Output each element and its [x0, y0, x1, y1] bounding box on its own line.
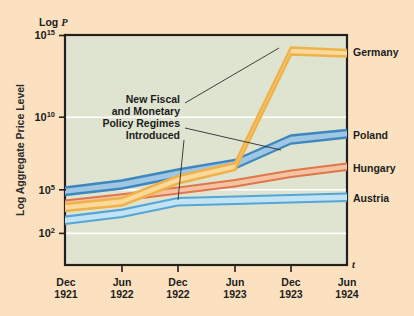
xtick-label-jun-1923-year: 1923	[223, 288, 247, 300]
xtick-label-jun-1923-month: Jun	[226, 276, 245, 288]
xtick-label-dec-1921-year: 1921	[54, 288, 78, 300]
annotation-line-2: and Monetary	[112, 105, 180, 117]
xtick-label-dec-1923-year: 1923	[279, 288, 303, 300]
series-label-hungary: Hungary	[353, 162, 396, 174]
xtick-label-jun-1924-month: Jun	[338, 276, 357, 288]
series-label-germany: Germany	[353, 46, 399, 58]
xtick-label-dec-1922-year: 1922	[166, 288, 190, 300]
hyperinflation-line-chart: 1015 1010 105 102 Log P Log Aggregate Pr…	[0, 0, 414, 316]
xtick-label-jun-1922-month: Jun	[113, 276, 132, 288]
annotation-line-4: Introduced	[126, 129, 180, 141]
annotation-line-3: Policy Regimes	[102, 117, 180, 129]
xtick-label-dec-1922-month: Dec	[168, 276, 187, 288]
plot-area	[65, 35, 347, 265]
xtick-label-dec-1921-month: Dec	[56, 276, 75, 288]
chart-figure: 1015 1010 105 102 Log P Log Aggregate Pr…	[0, 0, 414, 316]
series-label-austria: Austria	[353, 192, 389, 204]
xtick-label-dec-1923-month: Dec	[281, 276, 300, 288]
y-axis-title: Log Aggregate Price Level	[14, 84, 26, 216]
series-label-poland: Poland	[353, 129, 388, 141]
y-axis-header: Log P	[39, 16, 68, 28]
xtick-label-jun-1924-year: 1924	[335, 288, 359, 300]
xtick-label-jun-1922-year: 1922	[110, 288, 134, 300]
annotation-line-1: New Fiscal	[126, 93, 180, 105]
